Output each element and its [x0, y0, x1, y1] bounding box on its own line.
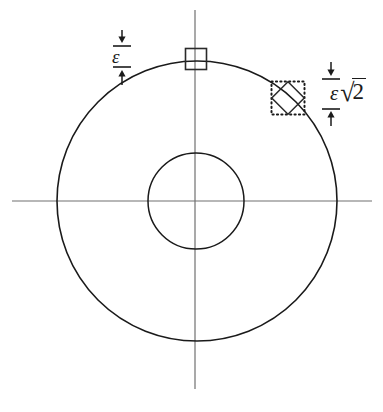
- geometry-figure: ε ε√2: [0, 0, 383, 412]
- figure-canvas: [0, 0, 383, 412]
